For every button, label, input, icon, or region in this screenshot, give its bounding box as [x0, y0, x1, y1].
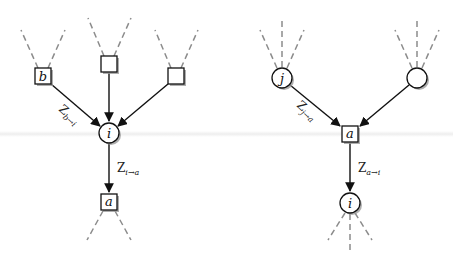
- factor-node-a: a: [101, 194, 119, 212]
- node-label-i: i: [348, 196, 352, 211]
- dashed-edge: [48, 30, 65, 68]
- msg-base: Z: [117, 161, 125, 175]
- right-panel: j a i Zj→a Za→i: [260, 20, 439, 254]
- dashed-edge: [422, 30, 439, 68]
- variable-node-i: i: [340, 193, 362, 215]
- factor-graph-figure: b i a Zb→i Zi→a: [0, 0, 453, 259]
- node-label-b: b: [39, 69, 47, 84]
- dashed-edge: [155, 30, 171, 68]
- dashed-edge: [87, 211, 103, 240]
- edge-right-to-i: [118, 84, 168, 126]
- dashed-edge: [114, 18, 131, 56]
- dashed-edge: [260, 30, 277, 68]
- dashed-edge: [355, 213, 372, 240]
- node-label-a: a: [105, 194, 113, 209]
- svg-text:Zb→i: Zb→i: [55, 102, 83, 129]
- msg-base: Z: [358, 161, 366, 175]
- factor-node-a: a: [342, 126, 360, 144]
- node-label-i: i: [107, 126, 111, 141]
- factor-node-mid: [101, 56, 119, 74]
- variable-node-right: [407, 68, 429, 90]
- node-label-a: a: [346, 126, 354, 141]
- svg-text:Za→i: Za→i: [358, 161, 381, 177]
- factor-node-b: b: [35, 68, 53, 86]
- msg-subscript: b→i: [61, 112, 78, 129]
- variable-node-j: j: [272, 68, 294, 90]
- edge-right-to-a: [360, 85, 409, 126]
- variable-node-i: i: [99, 123, 121, 145]
- message-label-j-to-a: Zj→a: [293, 98, 320, 125]
- svg-text:Zi→a: Zi→a: [117, 161, 140, 177]
- factor-node-right: [168, 68, 186, 86]
- msg-subscript: a→i: [366, 168, 380, 177]
- dashed-edge: [395, 30, 412, 68]
- svg-text:Zj→a: Zj→a: [293, 98, 320, 125]
- message-label-i-to-a: Zi→a: [117, 161, 140, 177]
- dashed-edge: [287, 30, 304, 68]
- message-label-b-to-i: Zb→i: [55, 102, 83, 129]
- dashed-edge: [115, 211, 131, 240]
- message-label-a-to-i: Za→i: [358, 161, 381, 177]
- dashed-edge: [181, 30, 198, 68]
- left-panel: b i a Zb→i Zi→a: [21, 18, 198, 240]
- msg-subscript: i→a: [125, 168, 139, 177]
- dashed-edge: [88, 18, 104, 56]
- dashed-edge: [328, 213, 345, 240]
- dashed-edge: [21, 30, 38, 68]
